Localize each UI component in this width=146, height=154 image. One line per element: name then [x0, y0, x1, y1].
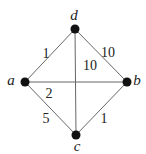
edge-weight-d-b: 10	[101, 45, 115, 60]
node-b	[123, 78, 132, 87]
node-a	[21, 78, 30, 87]
weighted-graph-diagram: 11010251 dabc	[0, 0, 146, 154]
node-d	[71, 25, 80, 34]
edge-weight-a-d: 1	[43, 46, 50, 61]
edge-a-d	[25, 29, 75, 82]
edge-weight-a-b: 2	[46, 86, 53, 101]
node-label-b: b	[133, 72, 141, 88]
graph-svg: 11010251 dabc	[0, 0, 146, 154]
edge-weight-a-c: 5	[43, 111, 50, 126]
edge-c-b	[76, 82, 127, 135]
edge-weight-c-b: 1	[101, 111, 108, 126]
node-label-c: c	[74, 138, 81, 154]
edge-weight-d-c: 10	[83, 58, 97, 73]
node-label-d: d	[70, 7, 78, 23]
node-label-a: a	[7, 72, 15, 88]
